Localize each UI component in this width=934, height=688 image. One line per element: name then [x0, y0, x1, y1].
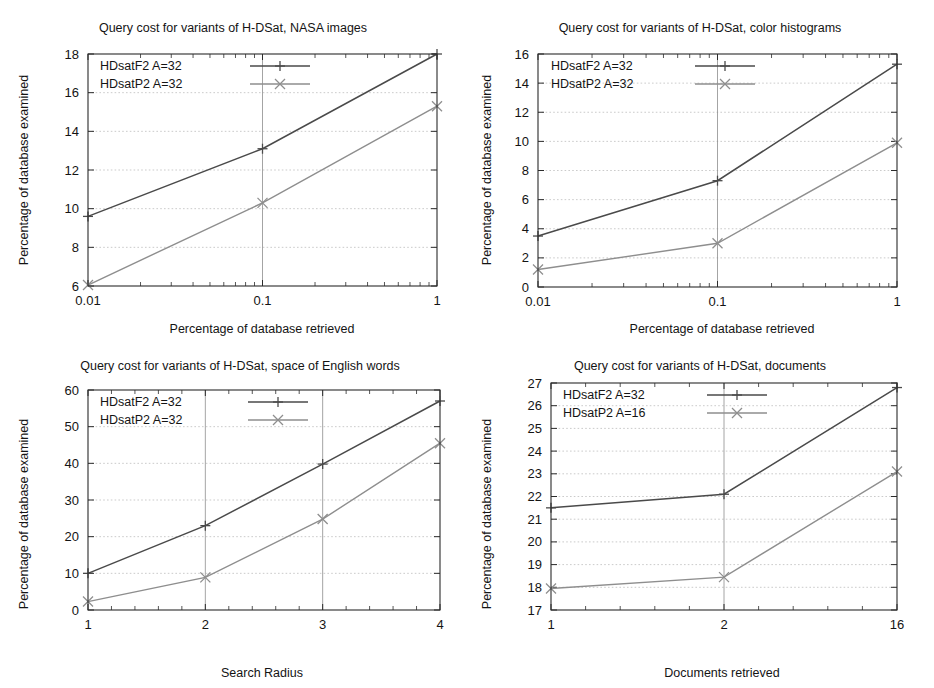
y-tick-label: 6 — [522, 192, 529, 207]
legend-marker — [732, 390, 742, 400]
x-tick-label: 0.1 — [708, 294, 726, 309]
y-axis-label: Percentage of database examined — [480, 419, 494, 609]
chart-svg-color: Query cost for variants of H-DSat, color… — [467, 0, 934, 344]
y-tick-label: 23 — [528, 466, 542, 481]
y-tick-label: 4 — [522, 221, 529, 236]
y-tick-label: 17 — [528, 603, 542, 618]
y-tick-label: 20 — [65, 529, 79, 544]
plot-area: 01020304050601234HDsatF2 A=32HDsatP2 A=3… — [65, 383, 445, 633]
y-tick-label: 18 — [65, 47, 79, 62]
x-tick-label: 1 — [84, 617, 91, 632]
plot-area: 02468101214160.010.11HDsatF2 A=32HDsatP2… — [515, 47, 902, 310]
x-tick-label: 16 — [890, 617, 904, 632]
plot-area: 17181920212223242526271216HDsatF2 A=32HD… — [528, 376, 905, 633]
y-tick-label: 26 — [528, 398, 542, 413]
chart-title: Query cost for variants of H-DSat, NASA … — [99, 21, 367, 35]
chart-panel-nasa: Query cost for variants of H-DSat, NASA … — [0, 0, 467, 344]
y-tick-label: 12 — [65, 163, 79, 178]
x-axis-label: Percentage of database retrieved — [170, 322, 355, 336]
x-axis-label: Documents retrieved — [664, 666, 779, 680]
chart-panel-english-words: Query cost for variants of H-DSat, space… — [0, 344, 467, 688]
y-tick-label: 8 — [72, 240, 79, 255]
x-axis-label: Search Radius — [221, 666, 303, 680]
legend-label: HDsatP2 A=32 — [100, 77, 182, 91]
legend-label: HDsatF2 A=32 — [100, 395, 182, 409]
y-tick-label: 2 — [522, 250, 529, 265]
chart-title: Query cost for variants of H-DSat, space… — [80, 359, 400, 373]
x-tick-label: 2 — [202, 617, 209, 632]
x-tick-label: 0.1 — [253, 293, 271, 308]
data-point-marker — [713, 176, 723, 186]
y-tick-label: 10 — [515, 134, 529, 149]
chart-panel-documents: Query cost for variants of H-DSat, docum… — [467, 344, 934, 688]
y-tick-label: 40 — [65, 456, 79, 471]
x-tick-label: 0.01 — [75, 293, 100, 308]
legend-label: HDsatP2 A=16 — [563, 406, 645, 420]
chart-svg-docs: Query cost for variants of H-DSat, docum… — [467, 344, 934, 688]
y-axis-label: Percentage of database examined — [480, 75, 494, 265]
x-tick-label: 1 — [547, 617, 554, 632]
y-tick-label: 14 — [65, 124, 79, 139]
x-tick-label: 1 — [433, 293, 440, 308]
chart-panel-color-histograms: Query cost for variants of H-DSat, color… — [467, 0, 934, 344]
y-axis-label: Percentage of database examined — [17, 419, 31, 609]
x-axis-label: Percentage of database retrieved — [630, 322, 815, 336]
data-point-marker — [258, 144, 268, 154]
y-tick-label: 8 — [522, 163, 529, 178]
figure-grid: Query cost for variants of H-DSat, NASA … — [0, 0, 934, 688]
x-tick-label: 1 — [893, 294, 900, 309]
data-point-marker — [200, 521, 210, 531]
y-tick-label: 50 — [65, 419, 79, 434]
x-tick-label: 3 — [319, 617, 326, 632]
y-tick-label: 10 — [65, 566, 79, 581]
x-tick-label: 0.01 — [525, 294, 550, 309]
y-tick-label: 12 — [515, 105, 529, 120]
x-tick-label: 2 — [720, 617, 727, 632]
y-tick-label: 0 — [72, 603, 79, 618]
legend-marker — [720, 61, 730, 71]
legend-label: HDsatF2 A=32 — [551, 59, 633, 73]
legend-label: HDsatP2 A=32 — [100, 413, 182, 427]
y-tick-label: 27 — [528, 376, 542, 391]
chart-title: Query cost for variants of H-DSat, docum… — [574, 359, 826, 373]
y-tick-label: 60 — [65, 383, 79, 398]
series-line — [88, 443, 440, 601]
chart-title: Query cost for variants of H-DSat, color… — [559, 21, 842, 35]
legend-label: HDsatF2 A=32 — [563, 388, 645, 402]
y-tick-label: 21 — [528, 512, 542, 527]
data-point-marker — [719, 489, 729, 499]
legend-marker — [275, 61, 285, 71]
y-tick-label: 30 — [65, 493, 79, 508]
y-axis-label: Percentage of database examined — [17, 75, 31, 265]
y-tick-label: 6 — [72, 279, 79, 294]
y-tick-label: 19 — [528, 557, 542, 572]
data-point-marker — [318, 459, 328, 469]
y-tick-label: 10 — [65, 201, 79, 216]
y-tick-label: 22 — [528, 489, 542, 504]
y-tick-label: 18 — [528, 580, 542, 595]
y-tick-label: 24 — [528, 444, 542, 459]
y-tick-label: 16 — [65, 85, 79, 100]
y-tick-label: 25 — [528, 421, 542, 436]
y-tick-label: 16 — [515, 47, 529, 62]
legend-label: HDsatF2 A=32 — [100, 59, 182, 73]
y-tick-label: 20 — [528, 534, 542, 549]
chart-svg-nasa: Query cost for variants of H-DSat, NASA … — [0, 0, 467, 344]
plot-area: 6810121416180.010.11HDsatF2 A=32HDsatP2 … — [65, 47, 442, 309]
x-tick-label: 4 — [436, 617, 443, 632]
legend-marker — [273, 397, 283, 407]
chart-svg-english: Query cost for variants of H-DSat, space… — [0, 344, 467, 688]
y-tick-label: 0 — [522, 280, 529, 295]
y-tick-label: 14 — [515, 76, 529, 91]
legend-label: HDsatP2 A=32 — [551, 77, 633, 91]
